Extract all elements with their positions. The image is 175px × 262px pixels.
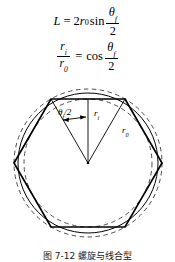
figure-caption: 图 7-12 螺旋与线合型 (0, 250, 175, 262)
equations-block: L = 2 r 0 sin θf 2 ri r0 (0, 0, 175, 82)
hexagon-circle-diagram: θf/2 ri r0 (0, 78, 175, 248)
equation2-relation: = (75, 50, 82, 63)
equation1-variable-subscript: 0 (85, 19, 89, 27)
inner-radius-label: ri (94, 109, 99, 120)
outer-radius-label-subscript: 0 (126, 132, 129, 138)
equation2-fraction-numerator: θf (105, 41, 117, 58)
equation-chord-length: L = 2 r 0 sin θf 2 (0, 6, 175, 37)
equation1-theta-symbol: θ (109, 5, 115, 19)
equation1-angle-fraction: θf 2 (106, 6, 119, 37)
inner-radius-label-subscript: i (98, 115, 100, 121)
outer-radius-label-symbol: r (122, 125, 126, 135)
figure-root: L = 2 r 0 sin θf 2 ri r0 (0, 0, 175, 262)
equation1-theta-subscript: f (115, 15, 117, 24)
equation-chord-length-row: L = 2 r 0 sin θf 2 (54, 6, 122, 37)
angle-label-subscript: f (62, 114, 64, 120)
equation1-fraction-denominator: 2 (108, 24, 118, 37)
center-point (87, 162, 90, 165)
inner-radius-label-symbol: r (94, 108, 98, 118)
angle-label: θf/2 (58, 108, 71, 119)
diagram-canvas (0, 78, 175, 248)
equation2-function: cos (86, 50, 103, 63)
equation2-fraction-denominator: 2 (106, 59, 116, 72)
equation2-denominator-subscript: 0 (64, 65, 68, 74)
angle-label-divisor: /2 (64, 107, 71, 117)
equation1-function: sin (90, 15, 105, 28)
equation1-lhs: L (54, 15, 61, 28)
equation2-angle-fraction: θf 2 (105, 41, 118, 72)
outer-radius-label: r0 (122, 126, 129, 137)
equation2-ratio-fraction: ri r0 (57, 41, 70, 72)
equation-radius-ratio-row: ri r0 = cos θf 2 (55, 41, 120, 72)
equation-radius-ratio: ri r0 = cos θf 2 (0, 40, 175, 72)
equation2-ratio-numerator: ri (58, 41, 69, 56)
equation1-relation: = (64, 15, 71, 28)
equation2-theta-subscript: f (113, 50, 115, 59)
equation2-numerator-subscript: i (65, 48, 67, 57)
equation1-fraction-numerator: θf (107, 6, 119, 23)
equation2-ratio-denominator: r0 (57, 57, 69, 72)
